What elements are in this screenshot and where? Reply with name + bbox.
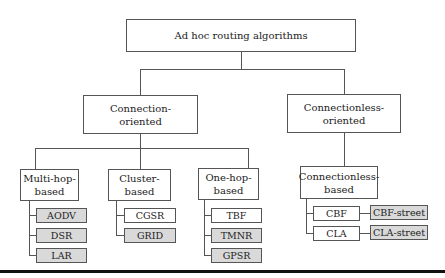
node-root: Ad hoc routing algorithms [126,19,356,52]
leaf-label: CGSR [136,210,165,222]
node-connectionless-based: Connectionless- based [300,166,378,199]
leaf-grid: GRID [124,228,176,243]
connector [306,213,313,214]
leaf-dsr: DSR [36,228,87,243]
leaf-cbf: CBF [313,206,360,221]
node-label: One-hop- based [205,171,251,197]
leaf-label: LAR [51,250,71,262]
connector [29,215,36,216]
node-one-hop-based: One-hop- based [198,168,259,200]
leaf-label: GRID [137,230,163,242]
leaf-label: DSR [51,230,72,242]
leaf-label: TMNR [221,230,253,242]
connector [241,51,242,69]
connector [306,199,307,234]
connector [29,235,36,236]
node-multi-hop-based: Multi-hop- based [20,169,79,201]
node-label: Multi-hop- based [23,172,76,198]
connector [140,69,141,95]
connector [35,148,249,149]
leaf-cgsr: CGSR [124,208,176,223]
connector [140,148,141,169]
node-label: Connection- oriented [110,102,171,128]
node-connectionless-oriented: Connectionless- oriented [287,94,401,133]
connector [35,148,36,169]
connector [116,235,124,236]
connector [116,215,124,216]
leaf-label: GPSR [223,250,251,262]
leaf-cbf-street: CBF-street [370,205,428,220]
leaf-gpsr: GPSR [211,248,262,263]
connector [344,132,345,166]
connector [140,133,141,148]
leaf-label: CBF-street [373,207,425,219]
leaf-tbf: TBF [211,208,262,223]
leaf-label: CLA-street [373,227,425,239]
leaf-tmnr: TMNR [211,228,262,243]
connector [344,69,345,94]
leaf-aodv: AODV [36,208,87,223]
leaf-label: TBF [227,210,247,222]
connector [360,213,370,214]
connector [204,235,211,236]
leaf-label: CLA [326,228,346,240]
connector [248,148,249,169]
node-label: Connectionless- based [299,170,380,196]
connector [29,255,36,256]
connector [116,201,117,236]
leaf-cla-street: CLA-street [370,225,428,240]
connector [204,255,211,256]
node-label: Ad hoc routing algorithms [174,29,307,42]
bottom-rule [0,270,445,273]
connector [306,233,313,234]
connector [204,215,211,216]
node-label: Cluster- based [119,172,160,198]
connector [360,233,370,234]
leaf-label: AODV [47,210,76,222]
node-cluster-based: Cluster- based [108,169,171,201]
leaf-cla: CLA [313,226,360,241]
leaf-label: CBF [326,208,347,220]
leaf-lar: LAR [36,248,87,263]
connector [204,200,205,256]
connector [29,201,30,256]
node-label: Connectionless- oriented [304,101,385,127]
node-connection-oriented: Connection- oriented [83,95,198,134]
connector [140,69,345,70]
